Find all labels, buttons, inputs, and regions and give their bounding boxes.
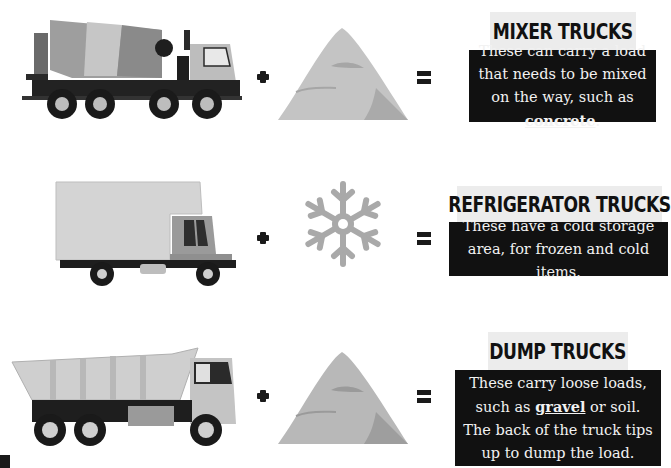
gravel-pile-icon	[276, 350, 410, 446]
sand-pile-icon	[276, 26, 410, 122]
description-refrigerator-trucks: These have a cold storage area, for froz…	[449, 222, 668, 276]
plus-icon	[257, 232, 269, 244]
equals-icon	[417, 390, 431, 404]
mixer-truck-icon	[12, 8, 242, 123]
description-mixer-trucks: These can carry a load that needs to be …	[469, 50, 656, 122]
title-dump-trucks: DUMP TRUCKS	[488, 332, 628, 370]
dump-truck-icon	[10, 340, 242, 450]
keyword-concrete: concrete	[525, 112, 596, 129]
equals-icon	[417, 71, 431, 85]
snowflake-icon	[303, 178, 383, 270]
equals-icon	[417, 232, 431, 246]
refrigerator-truck-icon	[52, 176, 248, 291]
keyword-gravel: gravel	[535, 398, 585, 415]
plus-icon	[257, 390, 269, 402]
page-corner-marker	[0, 455, 10, 468]
plus-icon	[257, 71, 269, 83]
description-dump-trucks: These carry loose loads, such as gravel …	[455, 370, 661, 466]
